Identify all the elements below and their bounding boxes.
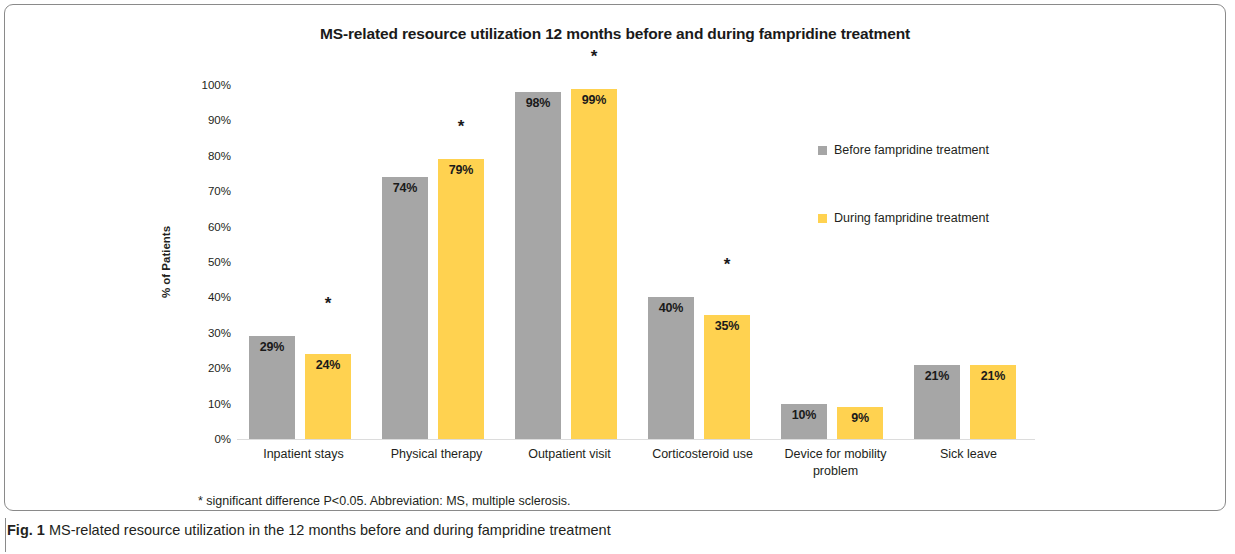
- bar-group: 21%21%: [902, 85, 1035, 439]
- y-axis-title: % of Patients: [157, 85, 175, 439]
- bar-value-label: 79%: [438, 163, 484, 177]
- bar[interactable]: 10%: [781, 404, 827, 439]
- bar[interactable]: 24%: [305, 354, 351, 439]
- chart-frame: MS-related resource utilization 12 month…: [4, 4, 1226, 511]
- bar-value-label: 9%: [837, 411, 883, 425]
- chart-footnote: * significant difference P<0.05. Abbrevi…: [198, 494, 571, 508]
- plot-area: 29%24%*74%79%*98%99%*40%35%*10%9%21%21%: [237, 85, 1035, 439]
- x-axis-category-label: Device for mobility problem: [769, 446, 902, 480]
- bar-value-label: 10%: [781, 408, 827, 422]
- bar[interactable]: 29%: [249, 336, 295, 439]
- y-axis-tick: 90%: [191, 114, 231, 126]
- y-axis-tick: 70%: [191, 185, 231, 197]
- significance-marker: *: [438, 118, 484, 135]
- bar[interactable]: 21%: [914, 365, 960, 439]
- y-axis-tick: 80%: [191, 150, 231, 162]
- legend-swatch-icon: [818, 214, 827, 223]
- figure-caption-text: MS-related resource utilization in the 1…: [49, 522, 611, 538]
- x-axis-category-label: Physical therapy: [370, 446, 503, 463]
- x-axis-category-label: Outpatient visit: [503, 446, 636, 463]
- legend-item[interactable]: Before fampridine treatment: [818, 143, 989, 157]
- bar-value-label: 99%: [571, 93, 617, 107]
- significance-marker: *: [704, 256, 750, 273]
- y-axis-title-label: % of Patients: [160, 226, 172, 298]
- bar[interactable]: 35%: [704, 315, 750, 439]
- y-axis-tick: 60%: [191, 221, 231, 233]
- significance-marker: *: [305, 295, 351, 312]
- x-axis-category-label: Inpatient stays: [237, 446, 370, 463]
- bar-group: 40%35%*: [636, 85, 769, 439]
- bar-group: 74%79%*: [370, 85, 503, 439]
- bar[interactable]: 21%: [970, 365, 1016, 439]
- legend-label: Before fampridine treatment: [834, 143, 989, 157]
- y-axis-tick: 100%: [191, 79, 231, 91]
- legend-swatch-icon: [818, 146, 827, 155]
- y-axis: 100%90%80%70%60%50%40%30%20%10%0%: [191, 85, 231, 439]
- y-axis-tick: 10%: [191, 398, 231, 410]
- chart-title: MS-related resource utilization 12 month…: [5, 25, 1225, 43]
- figure-root: MS-related resource utilization 12 month…: [0, 0, 1235, 554]
- bar[interactable]: 99%: [571, 89, 617, 439]
- bar-value-label: 21%: [914, 369, 960, 383]
- bar[interactable]: 9%: [837, 407, 883, 439]
- bar-group: 10%9%: [769, 85, 902, 439]
- bar[interactable]: 74%: [382, 177, 428, 439]
- legend-label: During fampridine treatment: [834, 211, 989, 225]
- bar-value-label: 74%: [382, 181, 428, 195]
- caption-rule: [5, 518, 6, 552]
- x-axis-baseline: [237, 439, 1035, 440]
- x-axis-category-label: Sick leave: [902, 446, 1035, 463]
- significance-marker: *: [571, 48, 617, 65]
- bar[interactable]: 98%: [515, 92, 561, 439]
- bar-value-label: 40%: [648, 301, 694, 315]
- bar-value-label: 98%: [515, 96, 561, 110]
- x-axis-category-label: Corticosteroid use: [636, 446, 769, 463]
- bar-value-label: 35%: [704, 319, 750, 333]
- figure-caption: Fig. 1 MS-related resource utilization i…: [7, 522, 1227, 538]
- y-axis-tick: 0%: [191, 433, 231, 445]
- bar-value-label: 24%: [305, 358, 351, 372]
- x-axis-labels: Inpatient staysPhysical therapyOutpatien…: [237, 446, 1035, 492]
- legend-item[interactable]: During fampridine treatment: [818, 211, 989, 225]
- bar-value-label: 29%: [249, 340, 295, 354]
- y-axis-tick: 20%: [191, 362, 231, 374]
- y-axis-tick: 30%: [191, 327, 231, 339]
- bar-group: 29%24%*: [237, 85, 370, 439]
- bar[interactable]: 79%: [438, 159, 484, 439]
- figure-caption-label: Fig. 1: [7, 522, 45, 538]
- bar[interactable]: 40%: [648, 297, 694, 439]
- bar-group: 98%99%*: [503, 85, 636, 439]
- y-axis-tick: 40%: [191, 291, 231, 303]
- y-axis-tick: 50%: [191, 256, 231, 268]
- bar-value-label: 21%: [970, 369, 1016, 383]
